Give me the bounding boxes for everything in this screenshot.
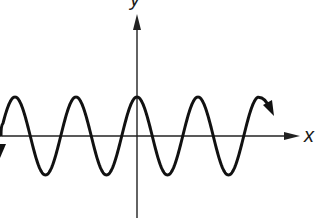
y-axis-arrow-icon xyxy=(133,14,141,30)
x-axis-label: x xyxy=(304,124,314,147)
x-axis-arrow-icon xyxy=(284,132,300,140)
graph-canvas xyxy=(0,0,321,220)
y-axis-label: y xyxy=(130,0,140,11)
y-axis xyxy=(133,14,141,218)
curve-right-arrow-icon xyxy=(263,100,274,116)
curve-left-arrow-icon xyxy=(0,144,6,158)
